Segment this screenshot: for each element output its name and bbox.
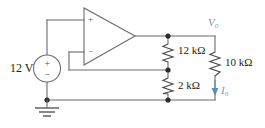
circuit-diagram: 12 V + − + − 12 kΩ 2 kΩ 10 kΩ Vo Io — [0, 0, 265, 128]
opamp-noninverting-sign: + — [88, 15, 93, 24]
opamp-inverting-sign: − — [88, 47, 93, 56]
junction-dot-bottom-node — [165, 97, 170, 102]
resistor-2k-zigzag — [163, 78, 173, 94]
source-value-label: 12 V — [10, 62, 33, 74]
resistor-2k-symbol — [163, 78, 173, 94]
resistor-12k-zigzag — [163, 44, 173, 62]
output-current-label: Io — [221, 85, 228, 98]
resistor-10k-label: 10 kΩ — [225, 57, 252, 68]
current-arrow-io — [212, 80, 219, 96]
io-arrow-head — [212, 88, 219, 96]
resistor-2k-label: 2 kΩ — [178, 80, 200, 91]
resistor-12k-symbol — [163, 44, 173, 62]
source-plus-sign: + — [45, 59, 51, 69]
source-minus-sign: − — [45, 70, 51, 80]
junction-dot-middle-node — [165, 67, 170, 72]
ground-symbol — [35, 100, 59, 116]
resistor-10k-zigzag — [210, 52, 220, 76]
junction-dot-group — [44, 33, 170, 102]
resistor-12k-label: 12 kΩ — [178, 45, 205, 56]
output-voltage-label: Vo — [208, 17, 218, 30]
junction-dot-output-node — [165, 33, 170, 38]
resistor-10k-symbol — [210, 52, 220, 76]
